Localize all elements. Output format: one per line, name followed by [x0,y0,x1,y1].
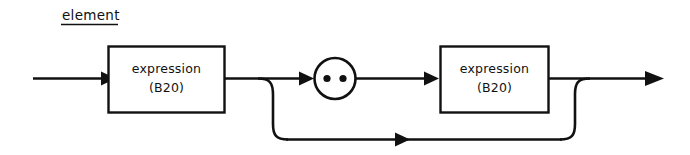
second-expression-box-label-line2: (B20) [477,80,512,95]
bypass-ascend-rail [560,79,590,140]
bypass-arrowhead-icon [395,133,410,147]
first-expression-box-label-line1: expression [132,61,201,76]
separator-arrowhead-icon [299,72,314,86]
second-box-arrowhead-icon [424,72,439,86]
bypass-descend-rail [258,79,288,140]
syntax-diagram-canvas: element expression (B20) expression (B20… [0,0,690,155]
separator-dot-right-icon [339,75,346,82]
separator-dot-left-icon [323,75,330,82]
second-expression-box-label-line1: expression [460,61,529,76]
exit-arrowhead-icon [645,71,664,86]
separator-circle [315,58,356,99]
diagram-title: element [62,7,120,23]
railroad-diagram-svg: element expression (B20) expression (B20… [0,0,690,155]
first-expression-box-label-line2: (B20) [149,80,184,95]
